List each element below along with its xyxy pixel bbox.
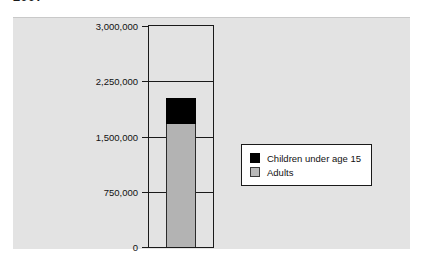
y-axis-tick-label: 1,500,000 <box>96 131 138 142</box>
legend-swatch-icon <box>250 153 260 163</box>
gridline <box>149 81 213 82</box>
bar-segment-adults[interactable] <box>166 124 196 247</box>
y-axis-tick-label: 3,000,000 <box>96 21 138 32</box>
bar-segment-children-under-age-15[interactable] <box>166 98 196 124</box>
chart-legend: Children under age 15 Adults <box>241 144 372 186</box>
legend-item-adults: Adults <box>250 165 361 179</box>
page-title: 2007 <box>13 0 43 4</box>
y-axis-tick <box>142 192 149 193</box>
y-axis-tick-label: 2,250,000 <box>96 76 138 87</box>
y-axis-tick-label: 0 <box>133 242 138 253</box>
y-axis-tick <box>142 137 149 138</box>
plot-area: 0750,0001,500,0002,250,0003,000,000 <box>148 25 214 248</box>
legend-swatch-icon <box>250 167 260 177</box>
y-axis-tick <box>142 81 149 82</box>
legend-item-label: Adults <box>267 167 293 178</box>
chart-panel: 0750,0001,500,0002,250,0003,000,000 Chil… <box>13 17 410 249</box>
legend-item-label: Children under age 15 <box>267 153 361 164</box>
y-axis-tick <box>142 26 149 27</box>
y-axis-tick <box>142 247 149 248</box>
y-axis-tick-label: 750,000 <box>104 186 138 197</box>
stacked-bar[interactable] <box>166 98 196 247</box>
legend-item-children: Children under age 15 <box>250 151 361 165</box>
